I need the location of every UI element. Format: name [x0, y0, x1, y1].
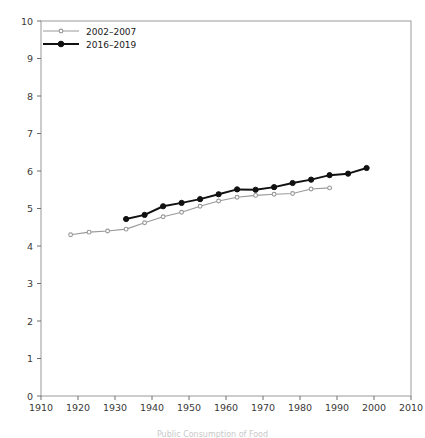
series-1 [69, 186, 332, 237]
legend-label-1: 2002–2007 [86, 27, 136, 37]
series-2 [124, 165, 370, 221]
line-chart: 0123456789101910192019301940195019601970… [0, 0, 425, 438]
data-point [198, 197, 203, 202]
y-axis-tick-label: 10 [21, 16, 33, 27]
x-axis-tick-label: 1990 [325, 402, 349, 413]
y-axis-tick-label: 1 [27, 353, 33, 364]
data-point [87, 230, 91, 234]
figure-caption: Public Consumption of Food [0, 422, 425, 438]
data-point [290, 180, 295, 185]
chart-container: 0123456789101910192019301940195019601970… [0, 0, 425, 438]
x-axis-tick-label: 1960 [214, 402, 238, 413]
y-axis-tick-label: 8 [27, 91, 33, 102]
y-axis-tick-label: 5 [27, 203, 33, 214]
y-axis-tick-label: 7 [27, 128, 33, 139]
x-axis-tick-label: 1920 [66, 402, 90, 413]
x-axis-tick-label: 1970 [251, 402, 275, 413]
data-point [272, 192, 276, 196]
data-point [272, 185, 277, 190]
data-point [124, 216, 129, 221]
data-point [198, 204, 202, 208]
legend: 2002–20072016–2019 [43, 27, 137, 50]
y-axis-tick-label: 0 [27, 391, 33, 402]
data-point [328, 186, 332, 190]
y-axis-tick-label: 3 [27, 278, 33, 289]
plot-frame [41, 21, 411, 396]
legend-marker-2 [58, 41, 64, 47]
y-axis-tick-label: 6 [27, 166, 33, 177]
data-point [235, 195, 239, 199]
data-point [235, 187, 240, 192]
data-point [309, 177, 314, 182]
x-axis-tick-label: 1930 [103, 402, 127, 413]
x-axis-tick-label: 1980 [288, 402, 312, 413]
data-point [254, 193, 258, 197]
y-axis-tick-label: 4 [27, 241, 33, 252]
x-axis-tick-label: 1910 [29, 402, 53, 413]
x-axis-tick-label: 2010 [399, 402, 423, 413]
data-point [364, 165, 369, 170]
y-axis-tick-label: 9 [27, 53, 33, 64]
x-axis-tick-label: 2000 [362, 402, 386, 413]
data-point [69, 233, 73, 237]
data-point [161, 215, 165, 219]
x-axis-tick-label: 1950 [177, 402, 201, 413]
data-point [106, 229, 110, 233]
data-point [346, 171, 351, 176]
data-point [142, 212, 147, 217]
legend-marker-1 [59, 29, 63, 33]
data-point [180, 210, 184, 214]
data-point [143, 221, 147, 225]
data-point [124, 227, 128, 231]
y-axis-tick-label: 2 [27, 316, 33, 327]
data-point [179, 200, 184, 205]
data-point [217, 199, 221, 203]
data-point [327, 173, 332, 178]
data-point [291, 192, 295, 196]
legend-label-2: 2016–2019 [86, 40, 137, 50]
data-point [253, 187, 258, 192]
data-point [309, 187, 313, 191]
x-axis-tick-label: 1940 [140, 402, 164, 413]
data-point [161, 204, 166, 209]
data-point [216, 192, 221, 197]
